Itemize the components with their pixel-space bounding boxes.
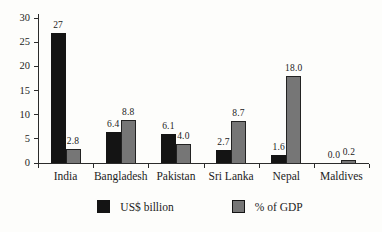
y-tick-30 bbox=[34, 18, 39, 19]
category-label-india: India bbox=[38, 170, 93, 183]
y-tick-15 bbox=[34, 90, 39, 91]
legend-swatch-usd-billion bbox=[97, 200, 110, 213]
bar-us-billion-nepal bbox=[271, 155, 286, 163]
y-tick-label-15: 15 bbox=[6, 86, 30, 96]
x-tick-0 bbox=[38, 164, 39, 168]
plot-area: 051015202530 272.86.48.86.14.02.78.71.61… bbox=[0, 0, 382, 232]
category-label-sri-lanka: Sri Lanka bbox=[204, 170, 259, 183]
x-tick-2 bbox=[148, 164, 149, 168]
bar-us-billion-bangladesh bbox=[106, 132, 121, 163]
x-tick-1 bbox=[93, 164, 94, 168]
bar-of-gdp-india bbox=[66, 149, 81, 163]
y-tick-label-20: 20 bbox=[6, 61, 30, 71]
legend-label-pct-of-gdp: % of GDP bbox=[255, 201, 303, 213]
y-tick-label-25: 25 bbox=[6, 37, 30, 47]
value-label-of-gdp-india: 2.8 bbox=[56, 136, 90, 146]
y-tick-label-30: 30 bbox=[6, 13, 30, 23]
legend-label-usd-billion: US$ billion bbox=[120, 201, 173, 213]
bar-of-gdp-nepal bbox=[286, 76, 301, 163]
value-label-of-gdp-pakistan: 4.0 bbox=[166, 131, 200, 141]
bar-of-gdp-pakistan bbox=[176, 144, 191, 163]
value-label-of-gdp-bangladesh: 8.8 bbox=[111, 107, 145, 117]
value-label-of-gdp-sri-lanka: 8.7 bbox=[222, 108, 256, 118]
category-label-maldives: Maldives bbox=[314, 170, 369, 183]
value-label-of-gdp-maldives: 0.2 bbox=[332, 147, 366, 157]
y-tick-25 bbox=[34, 42, 39, 43]
y-tick-label-5: 5 bbox=[6, 134, 30, 144]
bar-of-gdp-maldives bbox=[341, 160, 356, 163]
legend: US$ billion % of GDP bbox=[0, 200, 382, 213]
legend-swatch-pct-of-gdp bbox=[232, 200, 245, 213]
x-tick-3 bbox=[204, 164, 205, 168]
category-label-nepal: Nepal bbox=[259, 170, 314, 183]
bar-of-gdp-sri-lanka bbox=[231, 121, 246, 163]
y-tick-20 bbox=[34, 66, 39, 67]
category-label-pakistan: Pakistan bbox=[148, 170, 203, 183]
y-tick-5 bbox=[34, 138, 39, 139]
value-label-of-gdp-nepal: 18.0 bbox=[277, 63, 311, 73]
bar-us-billion-sri-lanka bbox=[216, 150, 231, 163]
bar-chart-figure: 051015202530 272.86.48.86.14.02.78.71.61… bbox=[0, 0, 382, 232]
y-tick-10 bbox=[34, 114, 39, 115]
x-tick-6 bbox=[369, 164, 370, 168]
value-label-us-billion-pakistan: 6.1 bbox=[151, 121, 185, 131]
x-tick-5 bbox=[314, 164, 315, 168]
y-tick-label-10: 10 bbox=[6, 110, 30, 120]
category-label-bangladesh: Bangladesh bbox=[93, 170, 148, 183]
x-tick-4 bbox=[259, 164, 260, 168]
y-tick-label-0: 0 bbox=[6, 158, 30, 168]
value-label-us-billion-india: 27 bbox=[41, 20, 75, 30]
y-axis-line bbox=[38, 14, 39, 163]
bar-of-gdp-bangladesh bbox=[121, 120, 136, 163]
